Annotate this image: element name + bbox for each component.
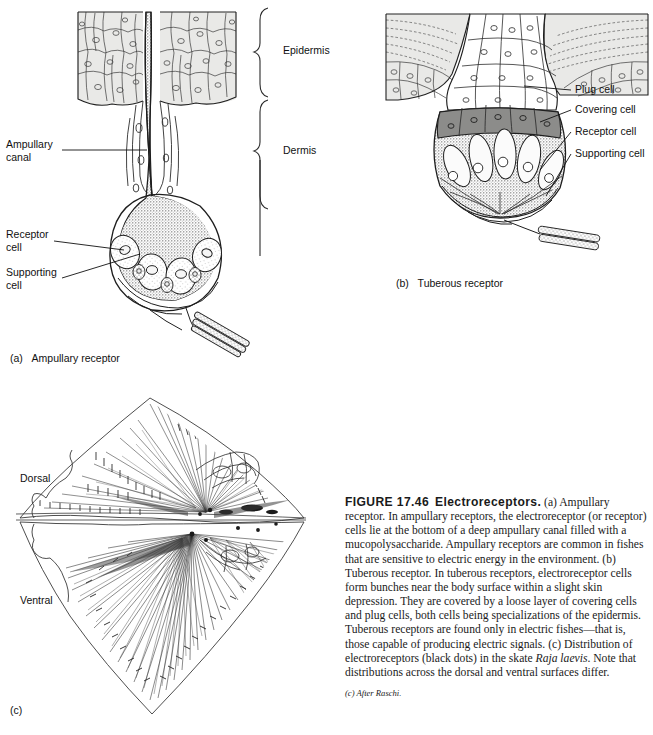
label-receptor-cell-b: Receptor cell: [575, 125, 636, 138]
label-covering-cell: Covering cell: [575, 103, 636, 116]
figure-title: Electroreceptors.: [435, 495, 541, 509]
figure-number: FIGURE 17.46: [345, 495, 429, 509]
figure-electroreceptors: Ampullarycanal Receptorcell Supportingce…: [0, 0, 653, 735]
figure-credit: (c) After Raschi.: [345, 688, 647, 698]
dermis-tissue: [126, 101, 178, 197]
layer-braces: [254, 8, 268, 256]
label-dorsal: Dorsal: [20, 472, 50, 485]
panel-a-ampullary-receptor-drawing: [54, 8, 268, 359]
label-epidermis: Epidermis: [283, 44, 330, 57]
label-supporting-cell-b: Supporting cell: [575, 147, 644, 160]
nerve-fiber-bundle-a: [187, 311, 250, 358]
label-plug-cell: Plug cell: [575, 83, 615, 96]
panel-a-caption: (a) Ampullary receptor: [10, 352, 120, 364]
label-ampullary-canal: Ampullarycanal: [6, 138, 53, 163]
epidermis-layer: [78, 12, 236, 105]
panel-c-caption: (c): [10, 704, 22, 716]
species-name: Raja laevis: [536, 652, 588, 665]
figure-caption: FIGURE 17.46 Electroreceptors. (a) Ampul…: [345, 495, 647, 680]
label-supporting-cell-a: Supportingcell: [6, 266, 57, 291]
nerve-fiber-bundle-b: [504, 220, 600, 250]
panel-b-caption: (b) Tuberous receptor: [396, 277, 503, 289]
brace-dermis: [254, 100, 268, 209]
brace-epidermis: [254, 8, 268, 97]
figure-caption-text: (a) Ampullary receptor. In ampullary rec…: [345, 496, 647, 665]
panel-c-skate-distribution-drawing: [16, 398, 306, 714]
label-dermis: Dermis: [283, 144, 316, 157]
label-ventral: Ventral: [20, 594, 53, 607]
label-receptor-cell-a: Receptorcell: [6, 228, 49, 253]
